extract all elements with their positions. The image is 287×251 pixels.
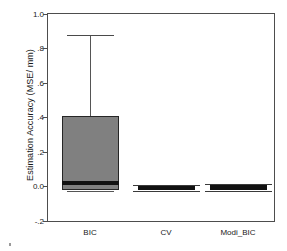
y-tick-label-4: .4 [4,113,44,122]
boxplot-figure: Estimation Accuracy (MSE/ mm) 1.0 .8 .6 … [0,0,287,251]
box-modi-bic [210,185,267,190]
whisker-line-bic [90,35,91,116]
x-tick-label-bic: BIC [50,228,130,237]
whisker-cap-low-cv [133,191,200,192]
x-tick-label-cv: CV [126,228,206,237]
box-bic [62,116,119,190]
y-tick-label-5: .2 [4,148,44,157]
whisker-cap-high-cv [133,185,200,186]
whisker-cap-low-bic [67,191,114,192]
y-tick-label-2: .8 [4,44,44,53]
x-tick-label-modi-bic: Modi_BIC [198,228,278,237]
box-cv [138,186,195,190]
median-line-bic [62,181,119,185]
whisker-cap-low-modi-bic [205,191,272,192]
plot-area [47,13,275,222]
page-artifact-speck [9,243,11,246]
whisker-cap-high-modi-bic [205,184,272,185]
y-tick-label-3: .6 [4,79,44,88]
y-tick-label-6: 0.0 [4,182,44,191]
y-tick-label-1: 1.0 [4,10,44,19]
whisker-cap-bic [67,35,114,36]
y-tick-label-7: -.2 [4,217,44,226]
